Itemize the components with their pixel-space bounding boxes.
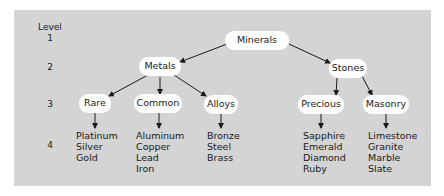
leaf-item: Copper [136,141,184,152]
leaf-list-rare: Platinum Silver Gold [76,130,118,163]
leaf-item: Marble [368,152,417,163]
leaf-item: Steel [207,141,240,152]
leaf-item: Aluminum [136,130,184,141]
leaf-item: Lead [136,152,184,163]
leaf-list-precious: Sapphire Emerald Diamond Ruby [303,130,346,174]
node-stones: Stones [329,59,367,78]
node-masonry: Masonry [363,95,409,114]
level-header: Level [35,22,65,32]
node-rare: Rare [79,94,111,113]
level-label-3: 3 [35,99,65,109]
edge-metals-alloys [174,75,206,96]
leaf-item: Gold [76,152,118,163]
node-common: Common [134,94,182,113]
leaf-item: Ruby [303,163,346,174]
level-label-1: 1 [35,33,65,43]
leaf-item: Slate [368,163,417,174]
node-alloys: Alloys [204,95,238,114]
leaf-item: Diamond [303,152,346,163]
leaf-item: Bronze [207,130,240,141]
leaf-item: Emerald [303,141,346,152]
node-precious: Precious [298,95,344,114]
edge-stones-precious [336,78,337,95]
leaf-list-masonry: Limestone Granite Marble Slate [368,130,417,174]
edge-minerals-metals [180,44,227,62]
level-label-4: 4 [35,140,65,150]
leaf-item: Granite [368,141,417,152]
leaf-item: Silver [76,141,118,152]
edge-minerals-stones [289,44,330,63]
level-label-2: 2 [35,62,65,72]
leaf-item: Iron [136,163,184,174]
leaf-item: Limestone [368,130,417,141]
leaf-list-alloys: Bronze Steel Brass [207,130,240,163]
leaf-item: Platinum [76,130,118,141]
node-minerals: Minerals [225,31,289,50]
node-metals: Metals [139,57,181,76]
leaf-item: Brass [207,152,240,163]
leaf-list-common: Aluminum Copper Lead Iron [136,130,184,174]
edge-stones-masonry [362,76,372,95]
edge-metals-rare [109,75,148,96]
leaf-item: Sapphire [303,130,346,141]
